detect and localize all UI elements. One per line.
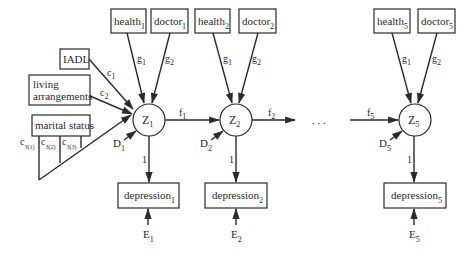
svg-text:arrangements: arrangements	[33, 90, 92, 102]
coef-c3-3: c3(3)	[62, 136, 76, 151]
health-2-box: health2	[195, 9, 230, 33]
doctor-2-box: doctor2	[239, 9, 276, 33]
edge-d5-z5	[390, 131, 402, 140]
latent-z5: Z5	[399, 104, 431, 136]
edge-doctor1-z1	[152, 33, 170, 103]
coef-g1-w1: g1	[137, 53, 146, 67]
depression-2-box: depression2	[205, 183, 267, 208]
loading-1-w5: 1	[407, 154, 412, 165]
edge-health5-z5	[392, 33, 411, 103]
edge-living-z1	[90, 96, 132, 114]
edge-d1-z1	[124, 131, 136, 140]
doctor-1-box: doctor1	[151, 9, 188, 33]
coef-g2-w1: g2	[165, 53, 174, 67]
coef-c2: c2	[100, 87, 108, 101]
svg-text:living: living	[33, 78, 59, 90]
coef-c3-2: c3(2)	[41, 136, 55, 151]
edge-health2-z2	[213, 33, 232, 103]
coef-g1-w2: g1	[223, 53, 232, 67]
svg-text:IADL: IADL	[63, 53, 90, 65]
edge-health1-z1	[127, 33, 144, 103]
health-1-box: health1	[111, 9, 146, 33]
iadl-box: IADL	[60, 49, 90, 69]
coef-c1: c1	[107, 67, 115, 81]
error-e1: E1	[143, 228, 154, 244]
coef-f1: f1	[179, 107, 186, 121]
svg-text:marital status: marital status	[35, 119, 94, 131]
depression-5-box: depression5	[384, 183, 446, 208]
coef-g2-w5: g2	[432, 53, 441, 67]
path-diagram: health1 doctor1 IADL living arrangements…	[0, 0, 474, 259]
error-e2: E2	[231, 228, 242, 244]
disturbance-d1: D1	[113, 137, 125, 153]
coef-g1-w5: g1	[402, 53, 411, 67]
edge-doctor5-z5	[418, 33, 437, 103]
health-5-box: health5	[374, 9, 410, 33]
doctor-5-box: doctor5	[418, 9, 455, 33]
marital-status-box: marital status	[32, 115, 94, 136]
latent-z1: Z1	[133, 104, 165, 136]
edge-d2-z2	[211, 131, 223, 140]
disturbance-d5: D5	[379, 137, 391, 153]
loading-1-w1: 1	[142, 154, 147, 165]
depression-1-box: depression1	[118, 183, 179, 208]
edge-doctor2-z2	[239, 33, 258, 103]
coef-c3-1: c3(1)	[20, 136, 34, 151]
coef-f2: f2	[268, 107, 275, 121]
loading-1-w2: 1	[229, 154, 234, 165]
living-arrangements-box: living arrangements	[29, 75, 92, 105]
error-e5: E5	[409, 228, 420, 244]
latent-z2: Z2	[220, 104, 252, 136]
disturbance-d2: D2	[200, 137, 212, 153]
ellipsis: . . .	[312, 114, 326, 126]
coef-g2-w2: g2	[252, 53, 261, 67]
coef-f5: f5	[367, 107, 374, 121]
